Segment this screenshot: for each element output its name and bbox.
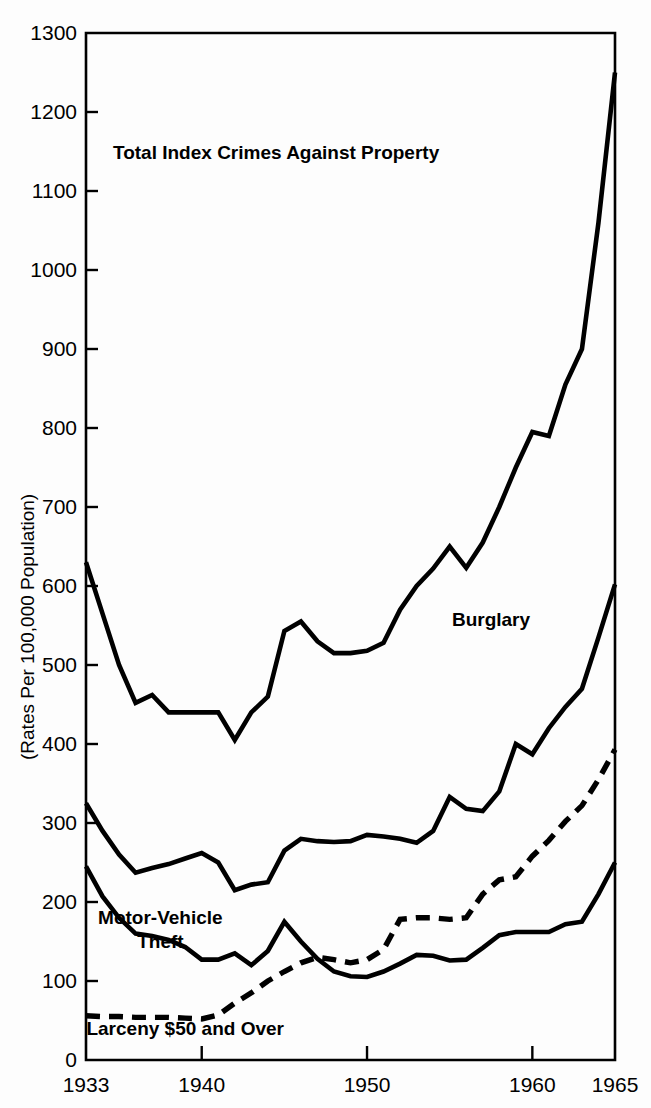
x-axis-tick-label: 1965 (592, 1073, 639, 1096)
y-axis-tick-label: 300 (42, 811, 77, 834)
y-axis-tick-label: 0 (65, 1048, 77, 1071)
series-label-burglary: Burglary (452, 609, 531, 630)
series-label-motor-vehicle-theft-line2: Theft (137, 931, 184, 952)
x-axis-tick-labels: 19331940195019601965 (63, 1073, 639, 1096)
chart-container: 0100200300400500600700800900100011001200… (0, 0, 651, 1108)
y-axis-tick-label: 1200 (30, 100, 77, 123)
y-axis-tick-label: 700 (42, 495, 77, 518)
series-label-motor-vehicle-theft: Motor-Vehicle (98, 907, 223, 928)
y-axis-tick-label: 1100 (32, 179, 77, 202)
line-chart: 0100200300400500600700800900100011001200… (0, 0, 651, 1108)
y-axis-tick-label: 1000 (30, 258, 77, 281)
x-axis-tick-label: 1940 (178, 1073, 225, 1096)
y-axis-tick-label: 400 (42, 732, 77, 755)
series-label-larceny-50-and-over: Larceny $50 and Over (86, 1018, 284, 1039)
y-axis-tick-label: 600 (42, 574, 77, 597)
y-axis-title: (Rates Per 100,000 Population) (17, 494, 38, 760)
x-axis-tick-label: 1960 (509, 1073, 556, 1096)
y-axis-tick-label: 800 (42, 416, 77, 439)
x-axis-tick-label: 1950 (344, 1073, 391, 1096)
data-series-group (86, 73, 615, 1019)
series-label-total-index-crimes-against-property: Total Index Crimes Against Property (113, 142, 440, 163)
series-annotation-labels: Total Index Crimes Against PropertyBurgl… (86, 142, 530, 1038)
y-axis-tick-label: 900 (42, 337, 77, 360)
x-axis-tick-label: 1933 (63, 1073, 110, 1096)
y-axis-tick-label: 200 (42, 890, 77, 913)
y-axis-tick-label: 100 (42, 969, 77, 992)
y-axis-tick-label: 500 (42, 653, 77, 676)
y-axis-ticks (86, 112, 98, 981)
y-axis-tick-label: 1300 (30, 21, 77, 44)
series-line-1 (86, 584, 615, 890)
series-line-0 (86, 73, 615, 741)
plot-frame (86, 33, 615, 1060)
x-axis-ticks (202, 1046, 533, 1060)
